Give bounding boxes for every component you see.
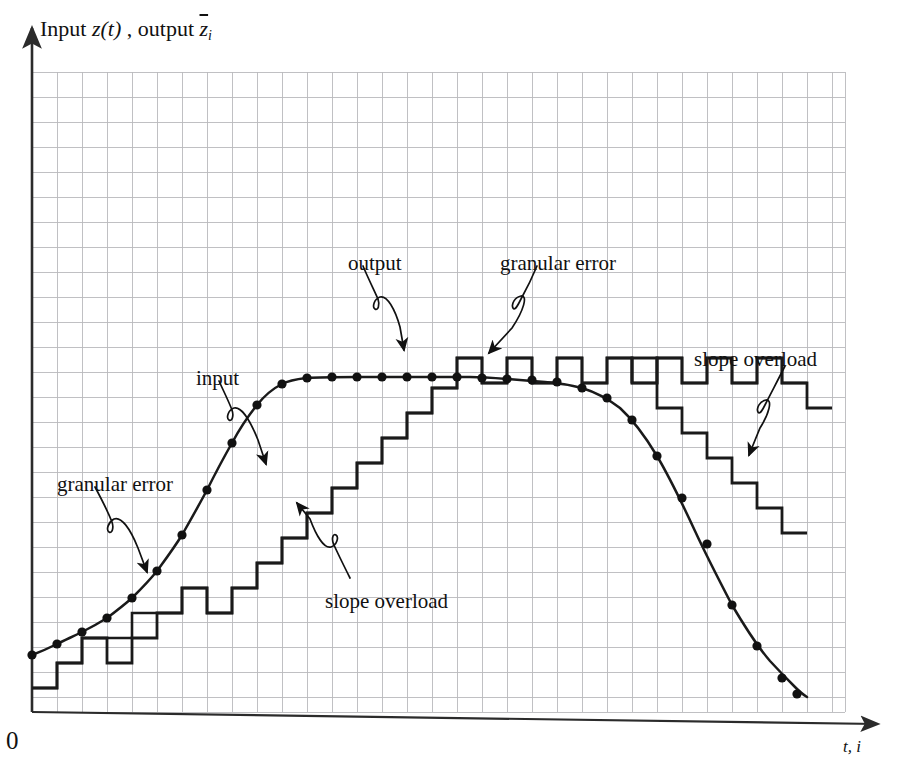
arrow-output bbox=[363, 266, 404, 350]
annotation-output: output bbox=[348, 253, 402, 274]
sample-points bbox=[27, 372, 801, 698]
annotation-slope-overload-right: slope overload bbox=[694, 349, 817, 370]
y-axis-label-subscript: i bbox=[208, 28, 212, 43]
y-axis-label-signal-1: z(t) bbox=[92, 16, 121, 41]
x-axis bbox=[32, 712, 878, 724]
annotation-granular-error-top: granular error bbox=[500, 253, 616, 274]
x-axis-label: t, i bbox=[843, 738, 861, 755]
y-axis-label-mid: , output bbox=[121, 16, 199, 41]
arrow-slope-overload-right bbox=[749, 366, 785, 455]
delta-modulation-figure bbox=[0, 0, 910, 783]
y-axis-label-prefix: Input bbox=[40, 16, 92, 41]
input-curve bbox=[32, 377, 807, 697]
arrow-granular-error-left bbox=[95, 487, 147, 572]
y-axis-label-signal-2: z bbox=[200, 16, 209, 41]
arrow-granular-error-top bbox=[489, 266, 537, 353]
annotation-input: input bbox=[196, 368, 239, 389]
plot-grid bbox=[32, 72, 845, 712]
annotation-granular-error-left: granular error bbox=[57, 474, 173, 495]
origin-label: 0 bbox=[6, 728, 19, 753]
y-axis-label: Input z(t) , output zi bbox=[40, 18, 212, 43]
annotation-slope-overload-left: slope overload bbox=[325, 591, 448, 612]
